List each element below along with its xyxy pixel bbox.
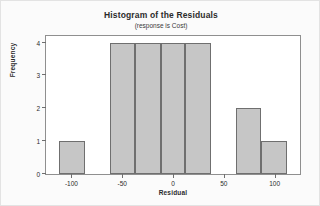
x-tick-mark	[224, 174, 225, 178]
x-tick-mark	[71, 174, 72, 178]
histogram-bar	[59, 141, 84, 174]
histogram-bar	[261, 141, 286, 174]
x-tick-mark	[275, 174, 276, 178]
plot-frame: 01234-100-50050100	[45, 35, 301, 175]
histogram-bar	[135, 43, 160, 174]
x-tick-label: -50	[117, 180, 126, 187]
y-tick-label: 4	[24, 39, 40, 46]
x-tick-label: -100	[65, 180, 78, 187]
x-tick-label: 50	[220, 180, 227, 187]
y-tick-mark	[42, 140, 46, 141]
plot-area: 01234-100-50050100	[46, 36, 300, 174]
y-tick-mark	[42, 173, 46, 174]
chart-subtitle: (response is Cost)	[1, 21, 320, 30]
x-tick-mark	[173, 174, 174, 178]
y-tick-mark	[42, 74, 46, 75]
y-tick-label: 1	[24, 138, 40, 145]
x-axis-title: Residual	[45, 189, 301, 196]
histogram-bar	[185, 43, 210, 174]
x-tick-label: 100	[269, 180, 280, 187]
x-tick-mark	[122, 174, 123, 178]
y-tick-mark	[42, 42, 46, 43]
page-title: Histogram of the Residuals	[1, 10, 320, 21]
histogram-bar	[161, 43, 185, 174]
title-block: Histogram of the Residuals (response is …	[1, 10, 320, 30]
histogram-figure: Histogram of the Residuals (response is …	[0, 0, 320, 206]
y-tick-mark	[42, 107, 46, 108]
y-tick-label: 2	[24, 105, 40, 112]
histogram-bar	[110, 43, 135, 174]
y-axis-title: Frequency	[9, 15, 16, 105]
y-tick-label: 3	[24, 72, 40, 79]
histogram-bar	[236, 108, 261, 174]
x-tick-label: 0	[171, 180, 175, 187]
y-tick-label: 0	[24, 171, 40, 178]
